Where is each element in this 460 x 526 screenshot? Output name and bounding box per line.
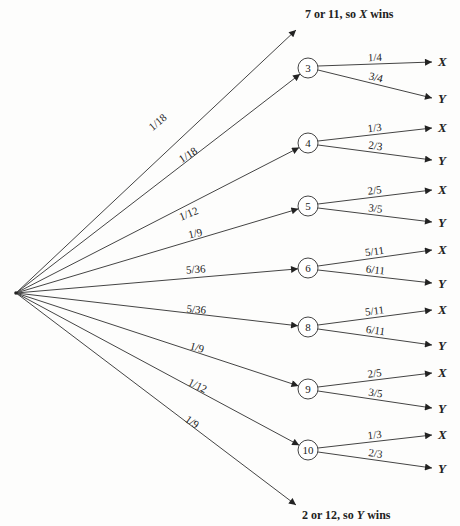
node-label: 4 [305, 137, 311, 149]
node-label: 3 [305, 62, 311, 74]
x-probability: 1/3 [367, 428, 383, 442]
y-probability: 6/11 [365, 323, 386, 338]
outcome-x: X [437, 242, 447, 257]
outcome-x: X [437, 54, 447, 69]
outcome-x: X [437, 365, 447, 380]
outcome-x: X [437, 427, 447, 442]
terminal-branch-bottom [16, 293, 296, 505]
outcome-x: X [437, 302, 447, 317]
x-probability: 2/5 [367, 366, 383, 380]
branch-to-node-5 [16, 209, 298, 293]
node-label: 6 [305, 262, 311, 274]
branch-to-node-9 [16, 293, 299, 386]
outcome-y: Y [438, 153, 447, 168]
terminal-outcome-top: 7 or 11, so X wins [305, 7, 394, 21]
outcome-y: Y [438, 461, 447, 476]
y-probability: 3/5 [368, 201, 384, 215]
y-probability: 6/11 [365, 262, 385, 276]
branch-probability: 1/18 [176, 144, 199, 165]
branch-probability: 5/36 [186, 262, 207, 275]
x-probability: 1/3 [367, 121, 383, 135]
outcome-x: X [437, 120, 447, 135]
branch-to-node-10 [16, 293, 299, 445]
terminal-branch-top [16, 30, 296, 293]
branch-to-node-3 [16, 74, 300, 293]
y-probability: 2/3 [368, 446, 384, 460]
branch-probability: 1/9 [189, 339, 206, 355]
x-probability: 5/11 [364, 244, 385, 259]
branch-probability: 5/36 [186, 302, 207, 316]
branch-probability: 1/9 [183, 413, 202, 431]
branch-probability: 1/12 [186, 376, 209, 395]
tree-svg: 1/187 or 11, so X wins1/92 or 12, so Y w… [0, 0, 460, 526]
x-probability: 2/5 [367, 183, 383, 197]
probability-tree-diagram: 1/187 or 11, so X wins1/92 or 12, so Y w… [0, 0, 460, 526]
node-label: 8 [305, 321, 311, 333]
branch-to-node-4 [16, 148, 299, 293]
outcome-y: Y [438, 215, 447, 230]
outcome-y: Y [438, 401, 447, 416]
x-probability: 5/11 [364, 303, 385, 317]
terminal-outcome-bottom: 2 or 12, so Y wins [302, 508, 391, 522]
outcome-y: Y [438, 338, 447, 353]
y-probability: 3/5 [368, 386, 384, 400]
node-label: 10 [303, 444, 315, 456]
branch-to-node-8 [16, 293, 298, 326]
branch-probability: 1/18 [146, 111, 169, 133]
branch-probability: 1/12 [177, 204, 200, 222]
node-label: 5 [305, 200, 311, 212]
outcome-y: Y [438, 91, 447, 106]
x-probability: 1/4 [368, 51, 383, 64]
outcome-x: X [437, 182, 447, 197]
y-probability: 2/3 [368, 139, 384, 153]
outcome-y: Y [438, 276, 447, 291]
root-node [14, 291, 18, 295]
node-label: 9 [305, 383, 311, 395]
branch-to-node-6 [16, 269, 298, 293]
